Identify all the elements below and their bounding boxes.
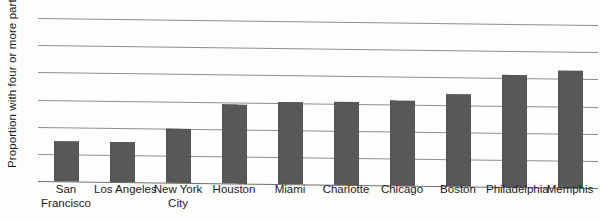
- bar-houston[interactable]: [222, 104, 247, 184]
- bar-philadelphia[interactable]: [502, 75, 527, 187]
- bar-memphis[interactable]: [558, 71, 583, 188]
- bar-los-angeles[interactable]: [110, 142, 135, 183]
- gridline-25: [38, 45, 598, 53]
- x-axis-labels-group: SanFranciscoLos AngelesNew YorkCityHoust…: [38, 182, 598, 221]
- x-axis-label-philadelphia: Philadelphia: [486, 182, 542, 196]
- bar-san-francisco[interactable]: [54, 142, 79, 182]
- gridlines-group: [38, 18, 598, 25]
- x-axis-label-houston: Houston: [206, 182, 262, 196]
- x-axis-label-line1: Boston: [440, 183, 476, 195]
- plot-area: 051015202530: [38, 18, 598, 181]
- x-axis-label-line1: Chicago: [381, 183, 423, 195]
- y-axis-title: Proportion with four or more partners: [6, 0, 18, 168]
- x-axis-label-charlotte: Charlotte: [318, 182, 374, 196]
- x-axis-label-line1: New York: [154, 183, 203, 195]
- x-axis-label-boston: Boston: [430, 182, 486, 196]
- bar-new-york-city[interactable]: [166, 128, 191, 183]
- x-axis-label-chicago: Chicago: [374, 182, 430, 196]
- bar-boston[interactable]: [446, 94, 471, 187]
- x-axis-label-line2: City: [150, 196, 206, 210]
- plot-skew-group: [38, 18, 598, 188]
- bar-charlotte[interactable]: [334, 102, 359, 185]
- x-axis-label-line1: Philadelphia: [486, 183, 549, 195]
- x-axis-label-line1: San: [56, 183, 76, 195]
- x-axis-label-memphis: Memphis: [542, 182, 598, 196]
- x-axis-label-line1: Los Angeles: [94, 183, 157, 195]
- x-axis-label-line1: Houston: [213, 183, 256, 195]
- bar-chart-figure: Proportion with four or more partners 05…: [0, 0, 601, 221]
- x-axis-label-line1: Memphis: [547, 183, 594, 195]
- x-axis-label-miami: Miami: [262, 182, 318, 196]
- x-axis-label-line1: Miami: [275, 183, 306, 195]
- bar-miami[interactable]: [278, 102, 303, 184]
- x-axis-label-new-york-city: New YorkCity: [150, 182, 206, 210]
- x-axis-label-los-angeles: Los Angeles: [94, 182, 150, 196]
- bar-chicago[interactable]: [390, 101, 415, 186]
- x-axis-label-line2: Francisco: [38, 196, 94, 210]
- x-axis-label-san-francisco: SanFrancisco: [38, 182, 94, 210]
- gridline-30: [38, 18, 598, 26]
- x-axis-label-line1: Charlotte: [323, 183, 370, 195]
